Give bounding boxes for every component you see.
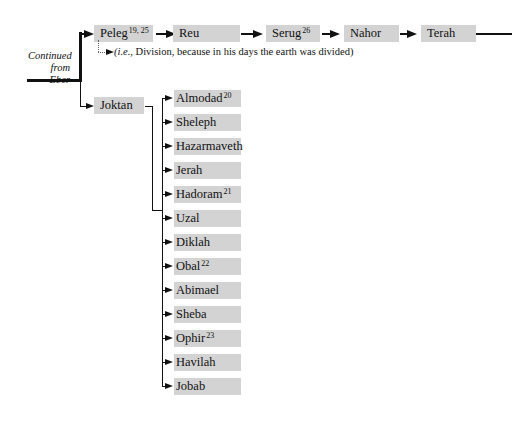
node-label: Jobab <box>176 379 205 393</box>
node-son: Jobab <box>174 378 241 395</box>
node-label: Jerah <box>176 163 202 177</box>
node-son: Hazarmaveth <box>174 138 241 155</box>
arrow-right-icon <box>165 335 173 341</box>
node-label: Havilah <box>176 355 216 369</box>
node-joktan: Joktan <box>94 97 144 114</box>
node-label: Serug <box>272 26 301 40</box>
node-label: Almodad <box>176 91 223 105</box>
note-arrow-icon <box>106 49 114 55</box>
node-son: Jerah <box>174 162 241 179</box>
node-label: Reu <box>179 26 199 40</box>
node-son: Sheleph <box>174 114 241 131</box>
node-label: Terah <box>427 26 455 40</box>
node-son: Obal22 <box>174 258 241 275</box>
node-son: Sheba <box>174 306 241 323</box>
arrow-right-icon <box>165 287 173 293</box>
node-reu: Reu <box>173 25 240 42</box>
arrow-right-icon <box>165 311 173 317</box>
footnote-ref: 21 <box>224 187 232 196</box>
joktan-connector-line <box>152 210 162 211</box>
node-son: Ophir23 <box>174 330 241 347</box>
arrow-right-icon <box>165 263 173 269</box>
arrow-right-icon <box>165 119 173 125</box>
node-son: Diklah <box>174 234 241 251</box>
footnote-ref: 22 <box>201 259 209 268</box>
node-label: Hazarmaveth <box>176 139 243 153</box>
arrow-right-icon <box>253 30 263 38</box>
arrow-right-icon <box>165 239 173 245</box>
peleg-note: (i.e., Division, because in his days the… <box>114 46 353 57</box>
eber-to-joktan-line <box>80 82 81 106</box>
node-son: Uzal <box>174 210 241 227</box>
node-label: Nahor <box>350 26 381 40</box>
node-label: Hadoram <box>176 187 223 201</box>
joktan-connector-line <box>152 106 153 210</box>
node-label: Diklah <box>176 235 210 249</box>
footnote-ref: 23 <box>206 331 214 340</box>
footnote-ref: 19, 25 <box>129 26 149 35</box>
node-label: Ophir <box>176 331 205 345</box>
arrow-right-icon <box>165 359 173 365</box>
arrow-to-peleg-icon <box>84 30 94 38</box>
node-serug: Serug26 <box>266 25 320 42</box>
note-text: , Division, because in his days the eart… <box>130 46 353 57</box>
node-son: Hadoram21 <box>174 186 241 203</box>
note-prefix: (i.e. <box>114 46 130 57</box>
node-label: Joktan <box>100 98 133 112</box>
arrow-right-icon <box>165 95 173 101</box>
arrow-right-icon <box>165 167 173 173</box>
arrow-right-icon <box>165 191 173 197</box>
footnote-ref: 20 <box>224 91 232 100</box>
arrow-to-joktan-icon <box>86 103 94 109</box>
arrow-right-icon <box>407 30 417 38</box>
node-terah: Terah <box>421 25 476 42</box>
node-son: Abimael <box>174 282 241 299</box>
eber-vertical-line <box>79 32 82 82</box>
node-label: Obal <box>176 259 200 273</box>
node-label: Uzal <box>176 211 200 225</box>
note-dotted-line <box>98 40 99 52</box>
node-son: Havilah <box>174 354 241 371</box>
node-label: Sheleph <box>176 115 216 129</box>
node-label: Abimael <box>176 283 219 297</box>
arrow-right-icon <box>165 143 173 149</box>
node-nahor: Nahor <box>344 25 399 42</box>
node-label: Peleg <box>100 26 128 40</box>
terah-continuation-line <box>476 33 512 35</box>
eber-line <box>27 79 81 82</box>
arrow-right-icon <box>165 215 173 221</box>
arrow-right-icon <box>165 383 173 389</box>
node-son: Almodad20 <box>174 90 241 107</box>
node-label: Sheba <box>176 307 207 321</box>
arrow-right-icon <box>330 30 340 38</box>
node-peleg: Peleg19, 25 <box>94 25 153 42</box>
footnote-ref: 26 <box>302 26 310 35</box>
